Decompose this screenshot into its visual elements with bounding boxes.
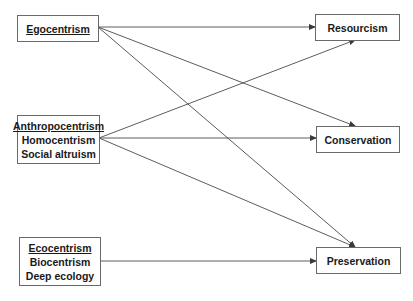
node-ecocentrism: Ecocentrism Biocentrism Deep ecology [19,237,101,286]
node-homocentrism-label: Homocentrism [22,133,96,147]
node-preservation: Preservation [316,247,401,274]
edge-anthropocentrism-preservation [99,138,355,247]
node-deep-ecology-label: Deep ecology [26,269,94,283]
node-anthropocentrism-label: Anthropocentrism [13,119,104,133]
node-resourcism-label: Resourcism [327,21,387,35]
node-biocentrism-label: Biocentrism [30,255,91,269]
node-conservation-label: Conservation [324,133,391,147]
node-conservation: Conservation [316,126,400,153]
edge-egocentrism-conservation [98,27,355,126]
node-social-altruism-label: Social altruism [21,147,96,161]
diagram-canvas: Egocentrism Anthropocentrism Homocentris… [0,0,413,301]
node-egocentrism-label: Egocentrism [26,22,90,36]
node-preservation-label: Preservation [327,254,391,268]
edge-anthropocentrism-resourcism [99,40,355,138]
node-egocentrism: Egocentrism [17,15,99,42]
node-ecocentrism-label: Ecocentrism [28,241,91,255]
node-resourcism: Resourcism [315,14,400,41]
node-anthropocentrism: Anthropocentrism Homocentrism Social alt… [17,115,100,164]
